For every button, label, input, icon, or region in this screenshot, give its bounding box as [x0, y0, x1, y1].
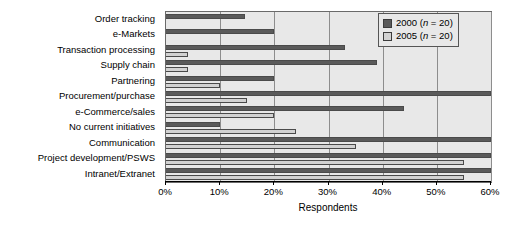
bar-2005	[166, 160, 464, 165]
bar-2000	[166, 153, 491, 158]
bar-2000	[166, 137, 491, 142]
bar-group	[166, 136, 491, 151]
bar-2005	[166, 67, 188, 72]
x-axis-title: Respondents	[165, 203, 491, 213]
x-axis-tick	[219, 181, 220, 185]
category-label: Transaction processing	[0, 42, 160, 57]
bar-2000	[166, 122, 220, 127]
legend-label: 2000 (n = 20)	[396, 17, 453, 30]
bar-2005	[166, 144, 356, 149]
chart-legend: 2000 (n = 20)2005 (n = 20)	[378, 13, 459, 47]
bar-group	[166, 89, 491, 104]
x-axis-tick	[165, 181, 166, 185]
x-axis-tick-label: 30%	[318, 187, 337, 197]
bar-2000	[166, 91, 491, 96]
category-label: Intranet/Extranet	[0, 166, 160, 181]
bar-2000	[166, 60, 377, 65]
bar-2005	[166, 98, 247, 103]
bar-2005	[166, 129, 296, 134]
x-axis-tick	[436, 181, 437, 185]
bar-group	[166, 105, 491, 120]
x-axis-tick-label: 10%	[210, 187, 229, 197]
category-axis-labels: Order trackinge-MarketsTransaction proce…	[0, 11, 160, 181]
bar-2000	[166, 45, 345, 50]
x-axis-tick	[490, 181, 491, 185]
bar-2005	[166, 83, 220, 88]
x-axis-tick	[273, 181, 274, 185]
category-label: Supply chain	[0, 57, 160, 72]
category-label: Order tracking	[0, 11, 160, 26]
legend-label: 2005 (n = 20)	[396, 30, 453, 43]
category-label: e-Commerce/sales	[0, 104, 160, 119]
bar-2000	[166, 106, 404, 111]
bar-2005	[166, 175, 464, 180]
bar-2005	[166, 52, 188, 57]
legend-swatch-icon	[383, 19, 392, 28]
legend-entry: 2005 (n = 20)	[383, 30, 453, 43]
bar-group	[166, 167, 491, 182]
bar-2000	[166, 14, 245, 19]
legend-swatch-icon	[383, 32, 392, 41]
category-label: No current initiatives	[0, 119, 160, 134]
x-axis-tick	[328, 181, 329, 185]
bar-2005	[166, 113, 274, 118]
bar-chart: Order trackinge-MarketsTransaction proce…	[0, 0, 511, 229]
gridline	[491, 12, 492, 182]
x-axis-tick-label: 60%	[480, 187, 499, 197]
bar-2000	[166, 76, 274, 81]
legend-entry: 2000 (n = 20)	[383, 17, 453, 30]
x-axis-tick-label: 0%	[158, 187, 172, 197]
category-label: Project development/PSWS	[0, 150, 160, 165]
bar-group	[166, 151, 491, 166]
category-label: Procurement/purchase	[0, 88, 160, 103]
x-axis-tick-label: 40%	[372, 187, 391, 197]
x-axis-line	[165, 181, 491, 182]
category-label: Communication	[0, 135, 160, 150]
bar-group	[166, 74, 491, 89]
bar-group	[166, 58, 491, 73]
category-label: e-Markets	[0, 26, 160, 41]
category-label: Partnering	[0, 73, 160, 88]
bar-2000	[166, 29, 274, 34]
x-axis-tick-label: 50%	[426, 187, 445, 197]
bar-2000	[166, 168, 491, 173]
x-axis-tick	[382, 181, 383, 185]
x-axis-tick-label: 20%	[264, 187, 283, 197]
bar-group	[166, 120, 491, 135]
x-axis-tick-labels: 0%10%20%30%40%50%60%	[0, 187, 511, 199]
